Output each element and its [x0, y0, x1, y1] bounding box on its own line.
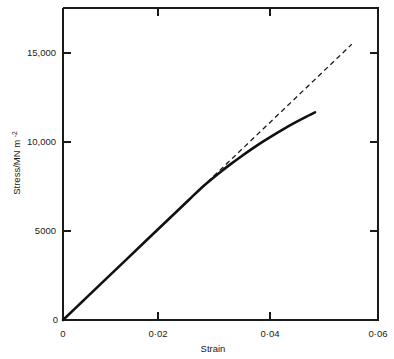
- y-tick-label-15000: 15,000: [27, 47, 56, 58]
- x-tick-label-0: 0: [60, 328, 65, 339]
- y-axis-title-group: Stress/MN m -2: [11, 131, 23, 195]
- x-tick-label-002: 0·02: [148, 328, 167, 339]
- y-tick-labels: 15,000 10,000 5000 0: [27, 47, 58, 325]
- stress-strain-curve: [63, 112, 315, 320]
- y-axis-title: Stress/MN m -2: [11, 131, 23, 195]
- x-axis-ticks-top: [158, 8, 270, 16]
- x-tick-labels: 0 0·02 0·04 0·06: [60, 328, 387, 339]
- y-axis-title-exponent: -2: [11, 131, 18, 137]
- y-tick-label-10000: 10,000: [27, 136, 56, 147]
- stress-strain-figure: 15,000 10,000 5000 0 0 0·02 0·04 0·06 St…: [0, 0, 394, 359]
- x-tick-label-006: 0·06: [368, 328, 387, 339]
- y-tick-label-0: 0: [53, 314, 58, 325]
- x-axis-ticks: [158, 312, 270, 320]
- y-axis-ticks-right: [370, 53, 378, 231]
- stress-strain-chart: 15,000 10,000 5000 0 0 0·02 0·04 0·06 St…: [0, 0, 394, 359]
- y-axis-ticks: [63, 53, 71, 231]
- y-axis-title-text: Stress/MN m: [11, 140, 22, 195]
- x-axis-title: Strain: [201, 343, 226, 354]
- y-tick-label-5000: 5000: [35, 225, 56, 236]
- x-tick-label-004: 0·04: [260, 328, 279, 339]
